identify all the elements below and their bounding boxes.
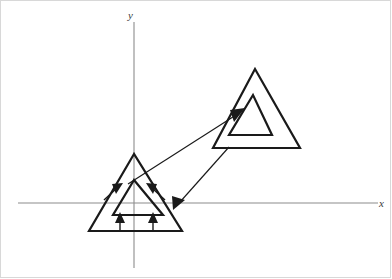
scale-arrow-bottom-right-head xyxy=(148,212,158,223)
forward-mapping-arrow-line xyxy=(128,115,236,184)
shapes-group xyxy=(89,69,300,231)
reverse-mapping-arrow-line xyxy=(180,147,229,202)
figure-canvas: y x xyxy=(0,0,392,279)
axes-group xyxy=(18,22,378,268)
right-outer-triangle xyxy=(213,69,300,148)
left-outer-triangle xyxy=(89,154,182,231)
scale-arrow-bottom-left-head xyxy=(115,212,125,223)
x-axis-label: x xyxy=(379,198,384,209)
y-axis-label: y xyxy=(128,10,133,21)
diagram-svg xyxy=(0,0,392,279)
